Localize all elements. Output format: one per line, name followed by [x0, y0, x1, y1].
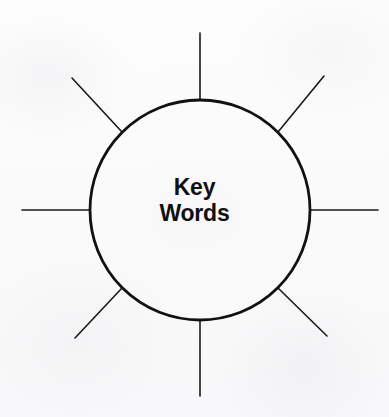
spoke-se[interactable]: [278, 288, 327, 336]
center-label-line-2: Words: [0, 200, 389, 226]
spoke-sw[interactable]: [75, 288, 122, 338]
center-label-line-1: Key: [0, 174, 389, 200]
spoke-nw[interactable]: [72, 78, 122, 132]
center-label: Key Words: [0, 174, 389, 226]
spoke-ne[interactable]: [278, 76, 324, 132]
